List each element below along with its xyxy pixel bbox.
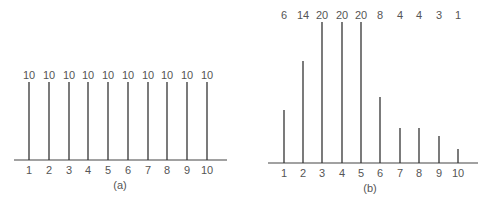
x-tick-label: 10 [452,167,464,179]
value-label: 10 [142,69,154,81]
value-label: 20 [355,9,367,21]
value-label: 14 [297,9,309,21]
x-tick-label: 2 [300,167,306,179]
value-label: 10 [181,69,193,81]
value-label: 20 [336,9,348,21]
x-tick-label: 7 [145,164,151,176]
x-tick-label: 4 [85,164,91,176]
x-tick-label: 9 [184,164,190,176]
x-tick-label: 3 [319,167,325,179]
x-tick-label: 4 [339,167,345,179]
x-tick-label: 3 [66,164,72,176]
x-tick-label: 5 [358,167,364,179]
x-tick-label: 6 [125,164,131,176]
chart-caption: (b) [363,182,376,194]
x-tick-label: 8 [416,167,422,179]
value-label: 4 [397,9,403,21]
value-label: 10 [82,69,94,81]
value-label: 10 [43,69,55,81]
value-label: 10 [102,69,114,81]
value-label: 4 [416,9,422,21]
x-tick-label: 9 [436,167,442,179]
value-label: 1 [455,9,461,21]
value-label: 6 [281,9,287,21]
value-label: 8 [377,9,383,21]
chart-canvas: 1011021031041051061071081091010(a) 61142… [0,0,488,204]
x-tick-label: 8 [164,164,170,176]
value-label: 10 [23,69,35,81]
value-label: 10 [201,69,213,81]
chart-caption: (a) [113,179,126,191]
value-label: 10 [122,69,134,81]
x-tick-label: 6 [377,167,383,179]
x-tick-label: 10 [201,164,213,176]
x-tick-label: 2 [46,164,52,176]
value-label: 10 [161,69,173,81]
x-tick-label: 1 [26,164,32,176]
value-label: 3 [436,9,442,21]
value-label: 10 [63,69,75,81]
chart-b: 6114220320420586474839110(b) [268,9,478,194]
x-tick-label: 5 [105,164,111,176]
chart-a: 1011021031041051061071081091010(a) [14,69,227,191]
value-label: 20 [316,9,328,21]
x-tick-label: 7 [397,167,403,179]
x-tick-label: 1 [281,167,287,179]
